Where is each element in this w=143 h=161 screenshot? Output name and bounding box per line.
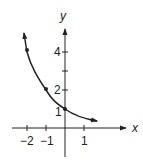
y-axis-label: y [59, 9, 67, 23]
data-points [25, 48, 67, 111]
x-tick-label: −1 [40, 134, 54, 148]
y-tick-label: 2 [54, 83, 61, 97]
x-tick-label: −2 [20, 134, 34, 148]
point-neg2-4 [25, 48, 29, 52]
y-tick-label: 4 [54, 45, 61, 59]
x-tick-label: 1 [81, 134, 88, 148]
curve-arrow-right [90, 120, 97, 122]
x-axis-label: x [131, 121, 139, 135]
point-0-1 [63, 107, 67, 111]
exponential-graph: x y −2 −1 1 1 2 4 [0, 0, 143, 161]
point-neg1-2 [44, 87, 48, 91]
